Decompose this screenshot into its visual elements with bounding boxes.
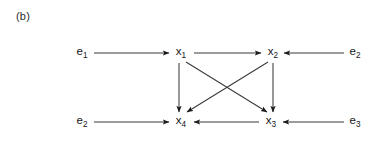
node-label-e1_left: e1 bbox=[77, 46, 88, 60]
node-subscript-x4: 4 bbox=[182, 120, 187, 129]
edge-x1-to-x3 bbox=[186, 62, 267, 112]
node-subscript-e3_right: 3 bbox=[356, 120, 361, 129]
node-label-e2_left: e2 bbox=[77, 115, 88, 129]
node-subscript-x1: 1 bbox=[182, 51, 187, 60]
node-subscript-e2_left: 2 bbox=[83, 120, 88, 129]
node-label-e2_right: e2 bbox=[350, 46, 361, 60]
edges-group bbox=[94, 53, 344, 122]
edge-x2-to-x4 bbox=[187, 62, 268, 112]
node-label-e3_right: e3 bbox=[350, 115, 361, 129]
figure-panel-b: (b) e1x1x2e2e2x4x3e3 bbox=[0, 0, 382, 141]
node-subscript-e2_right: 2 bbox=[356, 51, 361, 60]
graph-edges-canvas bbox=[0, 0, 382, 141]
node-label-x3: x3 bbox=[266, 115, 276, 129]
node-label-x4: x4 bbox=[176, 115, 186, 129]
node-subscript-x3: 3 bbox=[272, 120, 277, 129]
node-label-x1: x1 bbox=[176, 46, 186, 60]
node-subscript-x2: 2 bbox=[274, 51, 279, 60]
node-label-x2: x2 bbox=[268, 46, 278, 60]
node-subscript-e1_left: 1 bbox=[83, 51, 88, 60]
